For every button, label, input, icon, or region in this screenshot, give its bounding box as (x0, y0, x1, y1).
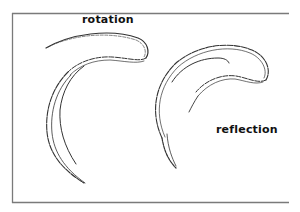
rotation-label: rotation (82, 14, 134, 25)
reflection-shape (156, 45, 269, 168)
figure-canvas: rotation reflection (0, 0, 300, 212)
rotation-outer-arc (46, 33, 148, 58)
rotation-tail-inner (52, 75, 85, 183)
rotation-return-arc-echo (70, 60, 144, 75)
reflection-return-arc-echo (198, 79, 263, 96)
diagram-svg (0, 0, 300, 212)
rotation-shape (46, 33, 148, 183)
rotation-outer-arc-echo (48, 35, 145, 57)
reflection-inner-curve (172, 58, 229, 82)
reflection-inner-tick (189, 96, 198, 112)
rotation-inner-curve (60, 66, 84, 164)
reflection-return-arc (196, 76, 266, 92)
reflection-tail-outer (162, 138, 176, 168)
reflection-label: reflection (216, 124, 278, 135)
reflection-tail-inner (167, 134, 176, 166)
